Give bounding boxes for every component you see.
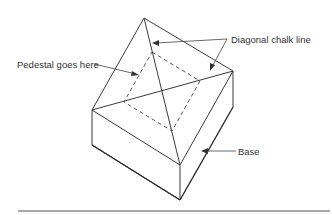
diagonal-chalk-line-2 (92, 71, 233, 110)
base-right-bottom-edge (180, 107, 233, 200)
diagonal-label: Diagonal chalk line (231, 34, 311, 45)
base-left-bottom-edge (92, 145, 180, 200)
base-diagram: Pedestal goes here Diagonal chalk line B… (0, 0, 332, 215)
diagonal-leader-1 (156, 39, 227, 43)
diagonal-arrowhead-2 (210, 63, 215, 71)
pedestal-arrowhead (131, 71, 139, 76)
base-arrowhead (201, 148, 208, 154)
base-left-face (92, 110, 180, 200)
base-label: Base (238, 146, 260, 157)
pedestal-label: Pedestal goes here (17, 59, 99, 70)
pedestal-leader (94, 64, 136, 74)
diagonal-arrowhead-1 (152, 40, 159, 46)
diagonal-chalk-line-1 (144, 18, 180, 165)
